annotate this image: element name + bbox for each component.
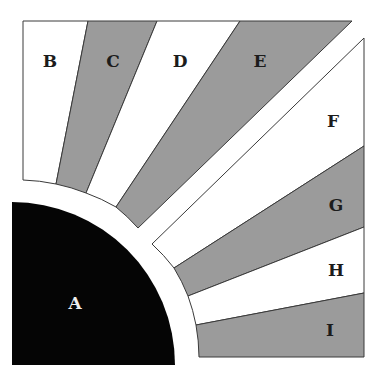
sunburst-diagram: A B C D E F G H I — [0, 0, 370, 372]
label-d: D — [173, 51, 188, 71]
region-a-quarter-circle — [12, 202, 175, 365]
label-h: H — [328, 260, 344, 280]
label-b: B — [43, 51, 57, 71]
label-g: G — [329, 195, 344, 215]
label-a: A — [67, 293, 82, 313]
label-i: I — [326, 320, 334, 340]
label-e: E — [254, 51, 267, 71]
label-c: C — [106, 51, 120, 71]
label-f: F — [327, 111, 339, 131]
